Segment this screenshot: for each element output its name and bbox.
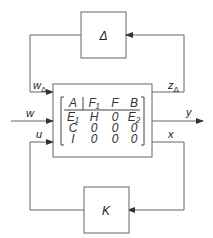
svg-text:B: B — [130, 96, 138, 110]
delta-label: Δ — [98, 29, 107, 43]
svg-text:0: 0 — [131, 132, 138, 146]
controller-block: K — [84, 187, 129, 233]
svg-text:0: 0 — [91, 132, 98, 146]
svg-text:F: F — [111, 96, 119, 110]
svg-text:A: A — [68, 96, 77, 110]
x-label: x — [167, 128, 174, 140]
y-label: y — [185, 106, 193, 118]
u-label: u — [36, 128, 42, 140]
svg-text:F₁: F₁ — [88, 96, 99, 110]
delta-block: Δ — [81, 12, 126, 58]
lft-diagram: Δ wΔ zΔ A F₁ F B E₁ H 0 E₂ C 0 0 0 I 0 0… — [0, 0, 213, 238]
controller-label: K — [102, 204, 111, 218]
svg-text:0: 0 — [112, 132, 119, 146]
w-label: w — [26, 107, 35, 119]
z-delta-path — [126, 35, 184, 92]
